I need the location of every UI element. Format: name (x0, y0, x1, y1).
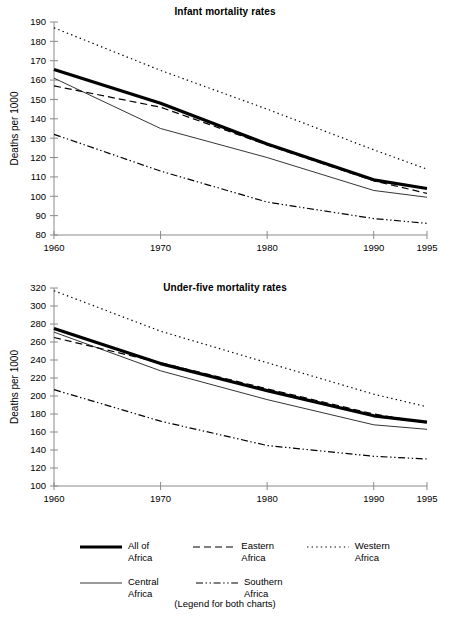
y-axis-label: Deaths per 1000 (9, 91, 20, 165)
infant-mortality-plot: 8090100110120130140150160170180190196019… (0, 0, 450, 270)
x-tick-label: 1970 (150, 493, 171, 504)
legend-item[interactable]: All of Africa (80, 540, 193, 563)
series-line (54, 291, 427, 407)
y-tick-label: 120 (30, 152, 46, 163)
x-tick-label: 1970 (150, 242, 171, 253)
y-tick-label: 220 (30, 372, 46, 383)
legend-item-label: Central Africa (128, 576, 159, 599)
y-tick-label: 90 (35, 210, 46, 221)
chart-legend: All of AfricaEastern AfricaWestern Afric… (0, 520, 450, 624)
y-tick-label: 150 (30, 94, 46, 105)
legend-note: (Legend for both charts) (0, 598, 450, 609)
y-tick-label: 280 (30, 318, 46, 329)
x-tick-label: 1990 (363, 242, 384, 253)
chart-title: Under-five mortality rates (0, 282, 450, 293)
y-tick-label: 100 (30, 191, 46, 202)
x-tick-label: 1960 (43, 493, 64, 504)
legend-item-label: Southern Africa (244, 576, 283, 599)
legend-item-label: Western Africa (355, 540, 390, 563)
y-tick-label: 130 (30, 133, 46, 144)
y-tick-label: 200 (30, 390, 46, 401)
x-tick-label: 1980 (257, 242, 278, 253)
y-tick-label: 240 (30, 354, 46, 365)
y-tick-label: 140 (30, 113, 46, 124)
legend-item-label: Eastern Africa (241, 540, 274, 563)
legend-line-swatch (193, 540, 235, 558)
legend-row: Central AfricaSouthern Africa (80, 576, 420, 599)
y-tick-label: 110 (31, 171, 46, 182)
y-tick-label: 120 (30, 462, 46, 473)
y-axis-label: Deaths per 1000 (9, 350, 20, 424)
y-tick-label: 160 (30, 74, 46, 85)
y-tick-label: 170 (30, 55, 46, 66)
legend-item[interactable]: Central Africa (80, 576, 196, 599)
legend-line-swatch (307, 540, 349, 558)
legend-line-swatch (80, 540, 122, 558)
y-tick-label: 80 (35, 229, 46, 240)
legend-item-label: All of Africa (128, 540, 152, 563)
legend-line-swatch (80, 576, 122, 594)
x-tick-label: 1990 (363, 493, 384, 504)
chart-title: Infant mortality rates (0, 6, 450, 17)
y-tick-label: 260 (30, 336, 46, 347)
y-tick-label: 100 (30, 480, 46, 491)
under-five-mortality-chart: Under-five mortality rates 1001201401601… (0, 270, 450, 520)
legend-row: All of AfricaEastern AfricaWestern Afric… (80, 540, 420, 563)
y-tick-label: 180 (30, 408, 46, 419)
x-tick-label: 1995 (416, 242, 437, 253)
infant-mortality-chart: Infant mortality rates 80901001101201301… (0, 0, 450, 270)
under-five-mortality-plot: 1001201401601802002202402602803003201960… (0, 270, 450, 520)
legend-line-swatch (196, 576, 238, 594)
y-tick-label: 190 (30, 16, 46, 27)
series-line (54, 28, 427, 169)
chart-page: Infant mortality rates 80901001101201301… (0, 0, 450, 624)
x-tick-label: 1960 (43, 242, 64, 253)
legend-item[interactable]: Eastern Africa (193, 540, 306, 563)
x-tick-label: 1995 (416, 493, 437, 504)
legend-item[interactable]: Southern Africa (196, 576, 312, 599)
series-line (54, 338, 427, 424)
series-line (54, 69, 427, 188)
y-tick-label: 140 (30, 444, 46, 455)
series-line (54, 329, 427, 423)
legend-item[interactable]: Western Africa (307, 540, 420, 563)
x-tick-label: 1980 (257, 493, 278, 504)
y-tick-label: 160 (30, 426, 46, 437)
y-tick-label: 180 (30, 36, 46, 47)
y-tick-label: 300 (30, 300, 46, 311)
